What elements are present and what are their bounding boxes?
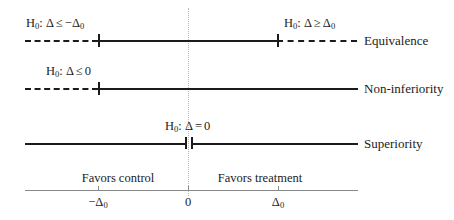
- zero-reference-line: [188, 8, 189, 196]
- axis-label-negative-margin: −Δ0: [88, 196, 107, 209]
- hypothesis-value-subscript: 0: [331, 21, 335, 31]
- hypothesis-value: −Δ: [65, 16, 80, 30]
- superiority-alternative-right-segment: [191, 143, 358, 145]
- superiority-null-tick-right: [191, 137, 193, 149]
- comparison-operator: ≥: [314, 16, 321, 30]
- delta-symbol: Δ: [185, 119, 193, 133]
- delta-symbol: Δ: [66, 64, 74, 78]
- hypothesis-value: 0: [85, 64, 91, 78]
- h0-symbol: H: [284, 16, 293, 30]
- h0-symbol: H: [46, 64, 55, 78]
- comparison-operator: ≤: [56, 16, 63, 30]
- hypothesis-margins-figure: H0: Δ≤−Δ0 H0: Δ≥Δ0 Equivalence H0: Δ≤0 N…: [0, 0, 454, 220]
- row-label-equivalence: Equivalence: [364, 34, 428, 47]
- hypothesis-value: 0: [204, 119, 210, 133]
- delta-symbol: Δ: [304, 16, 312, 30]
- h0-colon: :: [178, 119, 181, 133]
- axis-label-subscript: 0: [103, 200, 107, 210]
- axis-label-text: Δ: [272, 195, 280, 209]
- hypothesis-label-noninferiority: H0: Δ≤0: [46, 65, 91, 78]
- favors-treatment-label: Favors treatment: [218, 172, 302, 185]
- axis-label-text: −Δ: [88, 195, 103, 209]
- h0-colon: :: [39, 16, 42, 30]
- effect-size-axis: [25, 190, 358, 191]
- axis-tick-zero: [188, 186, 189, 191]
- row-label-noninferiority: Non-inferiority: [364, 82, 443, 95]
- axis-tick-negative-margin: [98, 186, 99, 191]
- axis-tick-positive-margin: [278, 186, 279, 191]
- hypothesis-label-equivalence-upper: H0: Δ≥Δ0: [284, 17, 335, 30]
- hypothesis-value-subscript: 0: [80, 21, 84, 31]
- comparison-operator: ≤: [76, 64, 83, 78]
- equivalence-alternative-segment: [98, 40, 277, 42]
- row-label-superiority: Superiority: [364, 137, 423, 150]
- superiority-null-tick-left: [185, 137, 187, 149]
- noninferiority-null-segment: [25, 88, 98, 90]
- axis-label-zero: 0: [185, 196, 191, 209]
- hypothesis-label-equivalence-lower: H0: Δ≤−Δ0: [26, 17, 84, 30]
- h0-symbol: H: [26, 16, 35, 30]
- equivalence-upper-margin-tick: [277, 34, 279, 47]
- favors-control-label: Favors control: [82, 172, 155, 185]
- superiority-alternative-left-segment: [25, 143, 185, 145]
- noninferiority-alternative-segment: [98, 88, 358, 90]
- hypothesis-value: Δ: [323, 16, 331, 30]
- equivalence-null-right-segment: [277, 40, 357, 42]
- delta-symbol: Δ: [46, 16, 54, 30]
- axis-label-subscript: 0: [280, 200, 284, 210]
- axis-label-positive-margin: Δ0: [272, 196, 284, 209]
- equivalence-lower-margin-tick: [98, 34, 100, 47]
- comparison-operator: =: [195, 119, 202, 133]
- h0-colon: :: [297, 16, 300, 30]
- noninferiority-margin-tick: [98, 82, 100, 95]
- h0-symbol: H: [165, 119, 174, 133]
- axis-label-text: 0: [185, 195, 191, 209]
- hypothesis-label-superiority: H0: Δ=0: [165, 120, 210, 133]
- equivalence-null-left-segment: [25, 40, 98, 42]
- h0-colon: :: [59, 64, 62, 78]
